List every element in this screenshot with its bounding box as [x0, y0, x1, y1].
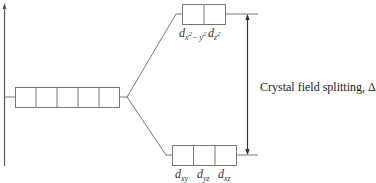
eg-orbitals	[183, 5, 259, 25]
delta-arrow	[245, 14, 249, 155]
orbital-label-dxy: dxy	[175, 168, 188, 183]
splitting-caption: Crystal field splitting, Δ	[260, 80, 376, 95]
orbital-label-dx2-y2: dx2− y2	[179, 27, 207, 42]
degenerate-orbitals	[16, 88, 120, 108]
splitting-lines	[120, 14, 183, 155]
t2g-orbitals	[173, 146, 259, 166]
orbital-label-dz2: dz2	[208, 27, 221, 42]
energy-axis	[3, 3, 7, 166]
orbital-label-dyz: dyz	[197, 168, 210, 183]
orbital-label-dxz: dxz	[218, 168, 231, 183]
